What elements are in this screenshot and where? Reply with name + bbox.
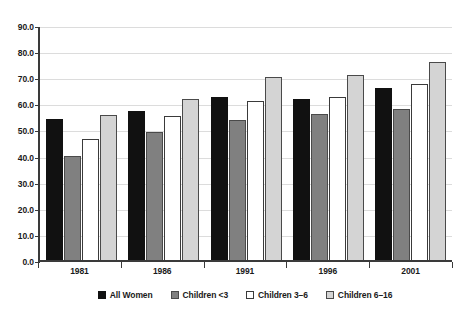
bar-group-2001 <box>370 27 452 260</box>
bars-layer <box>40 27 452 260</box>
y-axis-tick-label: 90.0 <box>0 22 34 32</box>
bar-group-1991 <box>205 27 287 260</box>
bar[interactable] <box>293 99 310 260</box>
bar[interactable] <box>265 77 282 260</box>
bar[interactable] <box>82 139 99 260</box>
y-axis-labels: 90.080.070.060.050.040.030.020.010.00.0 <box>0 21 34 267</box>
bar[interactable] <box>429 62 446 260</box>
x-axis-label-1981: 1981 <box>38 266 121 280</box>
legend-item[interactable]: Children 3–6 <box>246 290 308 300</box>
legend-label: Children 3–6 <box>258 290 308 300</box>
y-axis-tick-label: 60.0 <box>0 100 34 110</box>
x-axis-label-1996: 1996 <box>286 266 369 280</box>
y-axis-tick-label: 10.0 <box>0 231 34 241</box>
legend-swatch-icon <box>171 291 179 299</box>
y-axis-tick-label: 80.0 <box>0 48 34 58</box>
bar-group-1986 <box>122 27 204 260</box>
bar[interactable] <box>164 116 181 260</box>
bar[interactable] <box>46 119 63 260</box>
y-axis-tick-label: 40.0 <box>0 153 34 163</box>
legend-swatch-icon <box>326 291 334 299</box>
bar[interactable] <box>411 84 428 260</box>
y-axis-tick-label: 0.0 <box>0 257 34 267</box>
legend-label: All Women <box>110 290 153 300</box>
y-axis-tick-label: 50.0 <box>0 126 34 136</box>
bar[interactable] <box>100 115 117 260</box>
legend-item[interactable]: Children 6–16 <box>326 290 392 300</box>
x-axis-label-1991: 1991 <box>204 266 287 280</box>
bar[interactable] <box>64 156 81 260</box>
bar[interactable] <box>393 109 410 260</box>
y-axis-tick-label: 30.0 <box>0 179 34 189</box>
legend-item[interactable]: Children <3 <box>171 290 228 300</box>
bar[interactable] <box>311 114 328 260</box>
chart-title <box>62 0 362 5</box>
bar-group-1981 <box>40 27 122 260</box>
bar[interactable] <box>329 97 346 260</box>
bar[interactable] <box>146 132 163 260</box>
x-axis-label-1986: 1986 <box>121 266 204 280</box>
bar[interactable] <box>182 99 199 260</box>
bar[interactable] <box>347 75 364 260</box>
bar[interactable] <box>247 101 264 260</box>
chart-legend: All WomenChildren <3Children 3–6Children… <box>38 288 452 302</box>
bar[interactable] <box>211 97 228 260</box>
bar[interactable] <box>128 111 145 260</box>
y-axis-tick-label: 20.0 <box>0 205 34 215</box>
legend-label: Children <3 <box>183 290 228 300</box>
chart-figure: 90.080.070.060.050.040.030.020.010.00.0 … <box>0 0 460 309</box>
bar[interactable] <box>229 120 246 260</box>
legend-label: Children 6–16 <box>338 290 392 300</box>
x-axis-label-2001: 2001 <box>369 266 452 280</box>
x-axis-tick <box>452 262 453 268</box>
y-axis-tick-label: 70.0 <box>0 74 34 84</box>
x-axis-labels: 19811986199119962001 <box>38 266 452 280</box>
legend-item[interactable]: All Women <box>98 290 153 300</box>
legend-swatch-icon <box>98 291 106 299</box>
legend-swatch-icon <box>246 291 254 299</box>
bar-group-1996 <box>287 27 369 260</box>
plot-area <box>38 27 452 262</box>
bar[interactable] <box>375 88 392 260</box>
